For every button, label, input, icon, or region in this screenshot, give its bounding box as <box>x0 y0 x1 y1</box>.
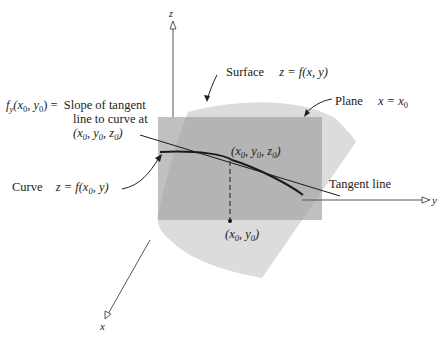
x-axis-arrowhead-icon <box>105 311 111 319</box>
surface-pointer-arrow <box>207 75 217 99</box>
surface-arrowhead-icon <box>204 95 210 102</box>
curve-pointer-arrow <box>122 158 159 189</box>
slope-label-line3: (x0, y0, z0) <box>73 126 123 142</box>
point2d-label: (x0, y0) <box>225 227 259 243</box>
x-axis <box>108 240 150 314</box>
z-axis-arrowhead-icon <box>170 21 176 29</box>
slope-label-line2: line to curve at <box>73 112 148 126</box>
y-axis-arrowhead-icon <box>422 197 430 203</box>
z-axis-label: z <box>168 8 173 19</box>
point-x0-y0 <box>228 219 232 223</box>
tangent-label: Tangent line <box>329 177 391 191</box>
plane-label: Plane x = x0 <box>335 94 408 110</box>
x-axis-label: x <box>99 320 105 332</box>
curve-label: Curve z = f(x0, y) <box>12 180 109 196</box>
plane-x-equals-x0 <box>158 117 322 220</box>
y-axis-label: y <box>431 194 437 206</box>
surface-label: Surface z = f(x, y) <box>226 65 328 79</box>
partial-derivative-figure: z y x Surface z = f(x, y) Plane x = x0 f… <box>0 0 446 343</box>
